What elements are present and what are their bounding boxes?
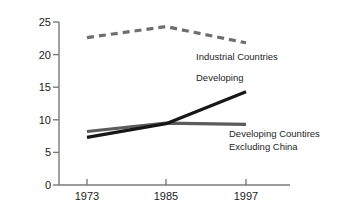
- x-tick-label-1997: 1997: [223, 190, 269, 202]
- chart-plot-area: [0, 0, 341, 215]
- series-label-developing: Developing: [196, 72, 244, 84]
- y-tick-label-0: 0: [25, 179, 51, 191]
- x-tick-label-1973: 1973: [64, 190, 110, 202]
- y-tick-label-5: 5: [25, 146, 51, 158]
- y-tick-label-15: 15: [25, 81, 51, 93]
- series-label-industrial-countries: Industrial Countries: [196, 51, 278, 63]
- x-tick-label-1985: 1985: [143, 190, 189, 202]
- series-label-developing-excluding-china-line2: Excluding China: [229, 141, 298, 153]
- series-label-developing-excluding-china-line1: Developing Countires: [229, 128, 320, 140]
- y-tick-label-20: 20: [25, 49, 51, 61]
- series-line-industrial-countries: [87, 27, 246, 43]
- chart-container: Per Capita Consumption (kg/year) 25 20 1…: [0, 0, 341, 215]
- y-tick-label-25: 25: [25, 16, 51, 28]
- y-tick-label-10: 10: [25, 114, 51, 126]
